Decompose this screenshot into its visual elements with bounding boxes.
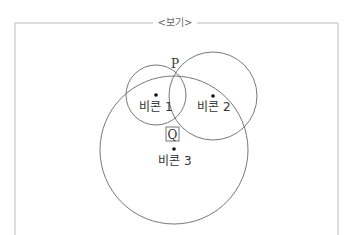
beacon-2-label: 비콘 2 <box>197 100 230 114</box>
box-title: <보기> <box>158 17 193 28</box>
beacon-diagram: <보기> 비콘 1 비콘 2 비콘 3 P Q <box>0 0 353 235</box>
beacon-1-label: 비콘 1 <box>139 100 172 114</box>
beacon-3-label: 비콘 3 <box>158 154 191 168</box>
point-q-label: Q <box>168 128 178 142</box>
beacon-1-dot <box>154 93 158 97</box>
point-p-label: P <box>171 57 179 71</box>
beacon-2-dot <box>211 94 215 98</box>
beacon-3-dot <box>172 147 176 151</box>
